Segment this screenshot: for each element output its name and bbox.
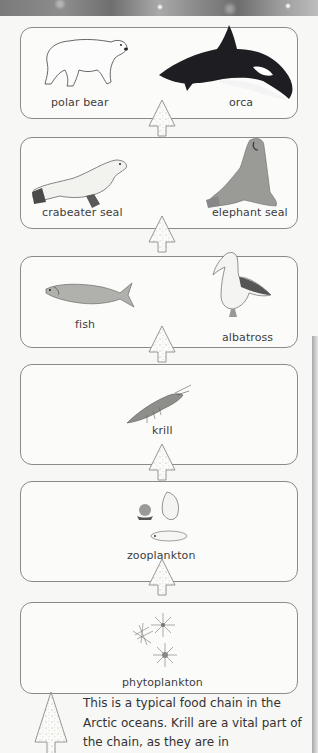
- caption-text: This is a typical food chain in the Arct…: [83, 694, 313, 753]
- organism-label-phytoplankton: phytoplankton: [122, 676, 203, 689]
- crabeater-seal-icon: [30, 152, 130, 210]
- organism-label-fish: fish: [75, 318, 95, 331]
- organism-label-polar-bear: polar bear: [51, 96, 109, 109]
- elephant-seal-icon: [204, 136, 284, 210]
- zooplankton-icon: [133, 488, 201, 552]
- level-box-phytoplankton: phytoplankton: [20, 602, 298, 694]
- header-banner: [0, 0, 318, 16]
- organism-label-orca: orca: [229, 96, 253, 109]
- up-arrow-speckled-icon: [147, 443, 177, 481]
- albatross-icon: [211, 251, 273, 321]
- phytoplankton-icon: [127, 613, 191, 671]
- organism-label-elephant-seal: elephant seal: [212, 206, 288, 219]
- organism-label-crabeater-seal: crabeater seal: [42, 206, 123, 219]
- up-arrow-speckled-icon: [147, 99, 177, 137]
- page-edge-strip: [312, 336, 318, 753]
- orca-icon: [157, 21, 299, 103]
- up-arrow-speckled-icon: [147, 558, 177, 596]
- krill-icon: [125, 383, 193, 427]
- polar-bear-icon: [37, 32, 131, 94]
- up-arrow-speckled-icon: [147, 215, 177, 253]
- fish-icon: [44, 279, 136, 311]
- organism-label-krill: krill: [152, 424, 173, 437]
- up-arrow-speckled-icon: [147, 325, 177, 363]
- organism-label-albatross: albatross: [222, 331, 273, 344]
- up-arrow-speckled-icon: [33, 690, 69, 753]
